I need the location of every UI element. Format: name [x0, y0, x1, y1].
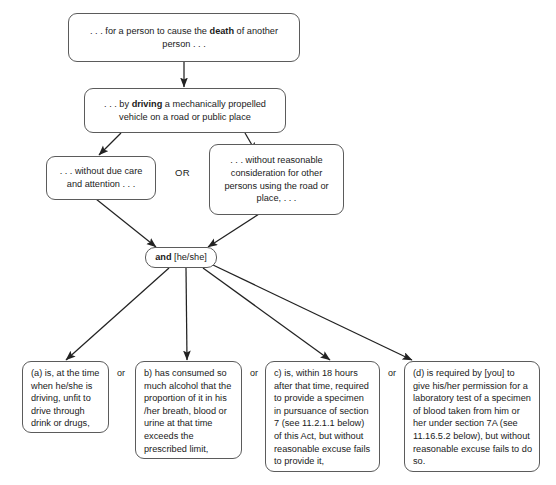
- flowchart-canvas: . . . for a person to cause the death of…: [0, 0, 556, 485]
- node-and-heshe-bold: and: [155, 252, 171, 262]
- node-driving-text-bold: driving: [132, 99, 163, 109]
- connector-label-or-upper: OR: [175, 167, 190, 178]
- node-death: . . . for a person to cause the death of…: [68, 13, 300, 62]
- connector-label-or-b-c: or: [250, 368, 258, 379]
- node-and-heshe-rest: [he/she]: [172, 252, 207, 262]
- node-without-due-care-text: . . . without due care and attention . .…: [54, 165, 148, 190]
- node-driving-text-part-1: . . . by: [104, 99, 132, 109]
- node-option-a-text: (a) is, at the time when he/she is drivi…: [31, 367, 101, 430]
- edge-and-to-option-a: [66, 268, 169, 360]
- node-option-b: b) has consumed so much alcohol that the…: [135, 361, 242, 459]
- node-without-reasonable-consideration-text: . . . without reasonable consideration f…: [217, 154, 336, 204]
- edge-and-to-option-b: [186, 268, 187, 360]
- node-driving: . . . by driving a mechanically propelle…: [84, 88, 286, 133]
- node-driving-text: . . . by driving a mechanically propelle…: [92, 98, 278, 123]
- node-without-reasonable-consideration: . . . without reasonable consideration f…: [209, 144, 344, 215]
- node-option-d: (d) is required by [you] to give his/her…: [404, 361, 540, 472]
- edge-driving-to-due-care: [99, 133, 121, 155]
- node-option-c-text: c) is, within 18 hours after that time, …: [274, 367, 372, 468]
- edge-due-care-to-and: [96, 199, 156, 247]
- edge-and-to-option-c: [203, 268, 330, 360]
- connector-label-or-a-b: or: [117, 368, 125, 379]
- connector-label-or-c-d: or: [388, 368, 396, 379]
- node-and-heshe: and [he/she]: [145, 247, 217, 268]
- node-death-text-part-1: . . . for a person to cause the: [90, 26, 210, 36]
- node-without-due-care: . . . without due care and attention . .…: [46, 156, 156, 200]
- edge-and-to-option-d: [213, 265, 412, 360]
- node-option-a: (a) is, at the time when he/she is drivi…: [22, 361, 109, 433]
- node-option-d-text: (d) is required by [you] to give his/her…: [413, 367, 532, 468]
- node-option-b-text: b) has consumed so much alcohol that the…: [144, 367, 234, 455]
- node-death-text: . . . for a person to cause the death of…: [76, 25, 292, 50]
- node-death-text-bold: death: [210, 26, 235, 36]
- node-and-heshe-text: and [he/she]: [153, 251, 209, 264]
- node-option-c: c) is, within 18 hours after that time, …: [265, 361, 380, 472]
- edge-reasonable-to-and: [208, 214, 259, 247]
